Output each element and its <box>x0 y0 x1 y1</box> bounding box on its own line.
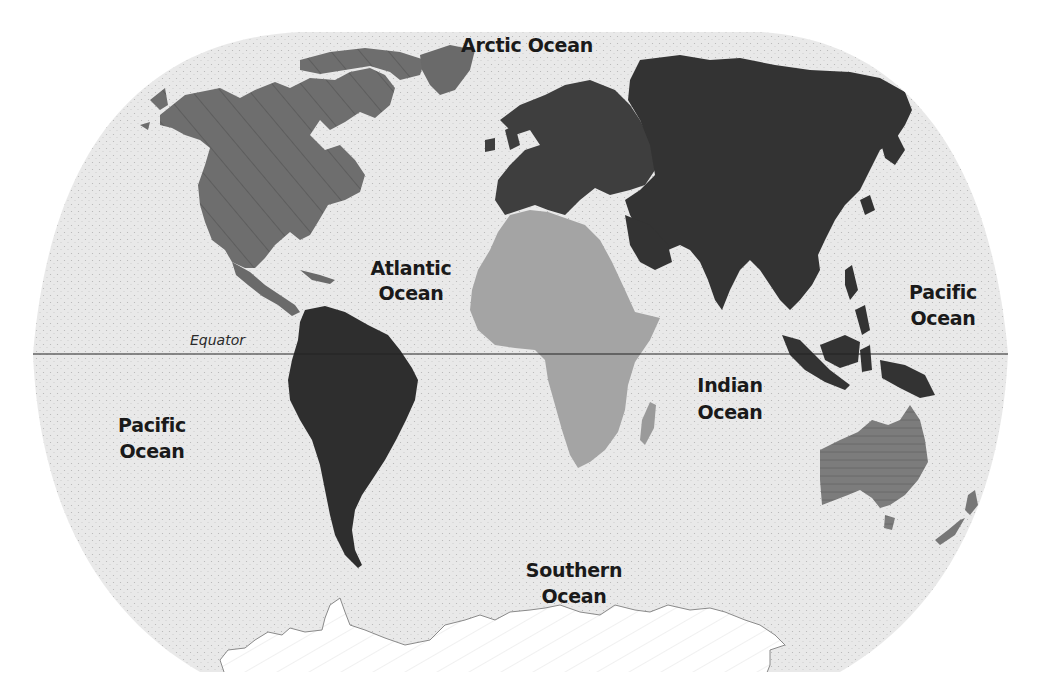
label-atlantic-ocean-line2: Ocean <box>378 282 443 304</box>
label-southern-ocean-line1: Southern <box>526 559 622 581</box>
label-arctic-ocean: Arctic Ocean <box>461 34 593 56</box>
label-pacific-ocean-west-line1: Pacific <box>118 414 186 436</box>
world-map: Equator Arctic Ocean Atlantic Ocean Paci… <box>0 0 1040 695</box>
label-pacific-ocean-east-line2: Ocean <box>910 307 975 329</box>
label-atlantic-ocean-line1: Atlantic <box>370 257 451 279</box>
map-svg: Equator Arctic Ocean Atlantic Ocean Paci… <box>0 0 1040 695</box>
label-indian-ocean-line1: Indian <box>697 374 762 396</box>
label-indian-ocean-line2: Ocean <box>697 401 762 423</box>
label-pacific-ocean-east-line1: Pacific <box>909 281 977 303</box>
label-southern-ocean-line2: Ocean <box>541 585 606 607</box>
equator-label: Equator <box>190 332 246 348</box>
label-pacific-ocean-west-line2: Ocean <box>119 440 184 462</box>
